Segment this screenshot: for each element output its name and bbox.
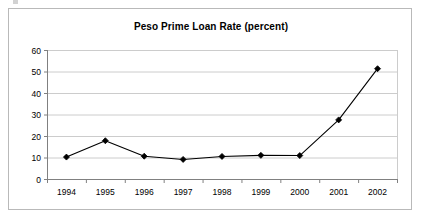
y-axis-tick-labels-group: 0102030405060 <box>32 46 42 185</box>
x-axis-tick-label: 1996 <box>135 187 154 197</box>
data-point-marker <box>63 154 69 160</box>
x-axis-tick-labels-group: 199419951996199719981999200020012002 <box>57 187 387 197</box>
y-tick-marks-group <box>44 51 47 180</box>
x-axis-tick-label: 1995 <box>96 187 115 197</box>
y-axis-tick-label: 30 <box>32 110 42 120</box>
x-axis-tick-label: 1994 <box>57 187 76 197</box>
y-axis-tick-label: 10 <box>32 153 42 163</box>
x-axis-tick-label: 1999 <box>251 187 270 197</box>
data-point-markers-group <box>63 66 380 163</box>
gridlines-group <box>47 51 397 159</box>
data-point-marker <box>102 138 108 144</box>
data-point-marker <box>180 156 186 162</box>
scan-artifact <box>13 0 18 4</box>
data-series-line <box>66 69 377 160</box>
y-axis-tick-label: 0 <box>36 175 41 185</box>
x-axis-tick-label: 1997 <box>174 187 193 197</box>
x-axis-tick-label: 2000 <box>290 187 309 197</box>
data-point-marker <box>258 152 264 158</box>
data-point-marker <box>219 153 225 159</box>
line-chart-plot: 0102030405060 19941995199619971998199920… <box>9 9 413 211</box>
x-axis-tick-label: 2002 <box>368 187 387 197</box>
y-axis-tick-label: 50 <box>32 67 42 77</box>
chart-figure: Peso Prime Loan Rate (percent) 010203040… <box>8 8 412 210</box>
x-axis-tick-label: 1998 <box>213 187 232 197</box>
x-axis-tick-label: 2001 <box>329 187 348 197</box>
y-axis-tick-label: 40 <box>32 89 42 99</box>
y-axis-tick-label: 60 <box>32 46 42 56</box>
y-axis-tick-label: 20 <box>32 132 42 142</box>
